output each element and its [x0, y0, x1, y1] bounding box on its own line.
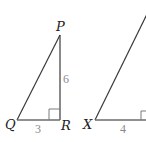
hypotenuse-pq: [17, 35, 60, 120]
triangle-pqr: P Q R 6 3: [5, 19, 71, 136]
geometry-diagram: P Q R 6 3 X 4: [0, 0, 146, 142]
triangle-x: X 4: [82, 8, 146, 136]
length-label-base-x: 4: [120, 122, 126, 136]
vertex-label-x: X: [82, 117, 93, 132]
right-angle-marker-2: [141, 111, 146, 120]
vertex-label-r: R: [60, 118, 71, 133]
length-label-pr: 6: [63, 72, 69, 86]
hypotenuse-x: [95, 8, 146, 120]
right-angle-marker-r: [49, 109, 60, 120]
vertex-label-q: Q: [5, 117, 16, 132]
vertex-label-p: P: [55, 19, 65, 34]
length-label-qr: 3: [35, 122, 41, 136]
